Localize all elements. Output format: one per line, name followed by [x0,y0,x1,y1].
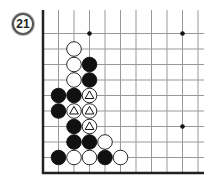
black-stone [67,119,82,134]
white-stone [82,150,97,165]
black-stone [51,104,66,119]
white-stone [67,150,82,165]
black-stone [82,73,97,88]
black-stone [98,150,113,165]
black-stone [51,88,66,103]
black-stone [51,150,66,165]
black-stone [67,88,82,103]
white-stone [113,150,128,165]
white-stone [67,57,82,72]
white-stone [98,135,113,150]
white-stone [67,73,82,88]
star-point [180,124,185,129]
black-stone [82,57,97,72]
black-stone [67,135,82,150]
star-point [87,31,92,36]
white-stone [67,42,82,57]
black-stone [82,135,97,150]
go-board [0,0,213,177]
star-point [180,31,185,36]
